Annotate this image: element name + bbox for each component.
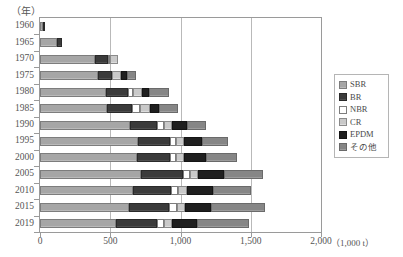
bar-segment-1970-BR — [95, 55, 108, 64]
bar-2005 — [40, 170, 263, 179]
bar-1965 — [40, 38, 62, 47]
y-axis-tick-label-1995: 1995 — [0, 135, 34, 145]
legend-label-EPDM: EPDM — [350, 130, 374, 139]
y-axis-tick-1975 — [34, 84, 39, 85]
x-axis-tick-2000 — [321, 233, 322, 237]
bar-segment-2015-SBR — [40, 203, 129, 212]
bar-1975 — [40, 71, 136, 80]
legend-swatch-icon-OTHER — [339, 143, 347, 151]
bar-2010 — [40, 186, 251, 195]
bar-segment-2010-EPDM — [187, 186, 213, 195]
y-axis-tick-1990 — [34, 133, 39, 134]
legend: SBRBRNBRCREPDMその他 — [334, 74, 389, 158]
bar-segment-1975-CR — [112, 71, 122, 80]
bar-segment-1985-EPDM — [150, 104, 160, 113]
bar-1985 — [40, 104, 178, 113]
bar-2019 — [40, 219, 249, 228]
bar-segment-1995-EPDM — [184, 137, 202, 146]
bar-segment-1975-その他 — [127, 71, 136, 80]
legend-swatch-icon-EPDM — [339, 131, 347, 139]
bar-segment-2015-その他 — [211, 203, 264, 212]
bar-2000 — [40, 153, 237, 162]
x-axis-tick-0 — [40, 233, 41, 237]
y-axis-tick-label-1985: 1985 — [0, 103, 34, 113]
bar-segment-2019-BR — [116, 219, 157, 228]
legend-label-BR: BR — [350, 93, 361, 102]
bar-segment-1960-BR — [43, 22, 45, 31]
bar-segment-1980-SBR — [40, 88, 106, 97]
y-axis-tick-label-1970: 1970 — [0, 53, 34, 63]
bar-segment-1980-CR — [133, 88, 142, 97]
legend-swatch-icon-BR — [339, 93, 347, 101]
bar-segment-1980-BR — [106, 88, 128, 97]
legend-item-CR: CR — [339, 117, 385, 128]
y-axis-tick-label-1960: 1960 — [0, 20, 34, 30]
y-axis-tick-1985 — [34, 117, 39, 118]
x-axis-unit-caption: （1,000 t） — [331, 236, 374, 249]
bar-segment-1975-BR — [98, 71, 112, 80]
bar-segment-2010-BR — [133, 186, 172, 195]
bar-segment-2005-EPDM — [198, 170, 224, 179]
legend-item-BR: BR — [339, 92, 385, 103]
x-axis-tick-label-0: 0 — [20, 236, 60, 246]
bar-segment-2005-SBR — [40, 170, 141, 179]
bar-segment-1995-その他 — [202, 137, 228, 146]
bar-segment-2005-NBR — [183, 170, 190, 179]
bar-segment-1965-BR — [57, 38, 62, 47]
bar-segment-1990-その他 — [187, 121, 207, 130]
bar-segment-1990-EPDM — [172, 121, 187, 130]
bar-2015 — [40, 203, 265, 212]
y-axis-tick-1960 — [34, 34, 39, 35]
bar-segment-2015-CR — [177, 203, 185, 212]
legend-label-NBR: NBR — [350, 105, 367, 114]
bar-segment-1985-BR — [107, 104, 132, 113]
plot-area — [39, 17, 322, 233]
bar-segment-1990-CR — [164, 121, 172, 130]
bar-segment-1985-その他 — [159, 104, 177, 113]
bar-segment-2019-SBR — [40, 219, 116, 228]
legend-label-OTHER: その他 — [350, 143, 377, 152]
bar-segment-1995-CR — [176, 137, 184, 146]
y-axis-tick-label-1975: 1975 — [0, 70, 34, 80]
y-axis-tick-1970 — [34, 67, 39, 68]
bar-segment-2005-BR — [141, 170, 183, 179]
y-axis-tick-1965 — [34, 51, 39, 52]
legend-swatch-icon-CR — [339, 118, 347, 126]
x-axis-tick-1000 — [181, 233, 182, 237]
bar-segment-1980-その他 — [149, 88, 169, 97]
bar-segment-1975-SBR — [40, 71, 98, 80]
bar-segment-1990-BR — [130, 121, 157, 130]
y-axis-tick-label-2010: 2010 — [0, 185, 34, 195]
bar-segment-1980-EPDM — [142, 88, 149, 97]
legend-label-CR: CR — [350, 118, 361, 127]
y-axis-tick-label-2005: 2005 — [0, 168, 34, 178]
legend-item-OTHER: その他 — [339, 142, 385, 153]
bar-segment-1970-CR — [110, 55, 118, 64]
bar-segment-2010-CR — [178, 186, 186, 195]
bar-segment-1995-BR — [138, 137, 170, 146]
x-axis-tick-1500 — [251, 233, 252, 237]
bar-segment-2000-EPDM — [184, 153, 206, 162]
y-axis-tick-2010 — [34, 199, 39, 200]
bar-segment-1985-SBR — [40, 104, 107, 113]
bar-1990 — [40, 121, 206, 130]
legend-item-NBR: NBR — [339, 104, 385, 115]
y-axis-tick-label-1965: 1965 — [0, 37, 34, 47]
legend-label-SBR: SBR — [350, 80, 366, 89]
bar-1980 — [40, 88, 169, 97]
x-axis-tick-label-1000: 1,000 — [161, 236, 201, 246]
y-axis-unit-caption: （年） — [11, 3, 41, 18]
y-axis-tick-2000 — [34, 166, 39, 167]
y-axis-tick-1995 — [34, 150, 39, 151]
legend-item-EPDM: EPDM — [339, 129, 385, 140]
bar-segment-2010-SBR — [40, 186, 133, 195]
bar-segment-1985-CR — [140, 104, 150, 113]
bar-segment-2019-その他 — [197, 219, 250, 228]
y-axis-tick-label-1990: 1990 — [0, 119, 34, 129]
y-axis-tick-1980 — [34, 100, 39, 101]
bar-segment-2019-EPDM — [172, 219, 197, 228]
bar-segment-1990-SBR — [40, 121, 130, 130]
bar-segment-2015-NBR — [169, 203, 177, 212]
bar-1970 — [40, 55, 118, 64]
bar-segment-1985-NBR — [132, 104, 140, 113]
